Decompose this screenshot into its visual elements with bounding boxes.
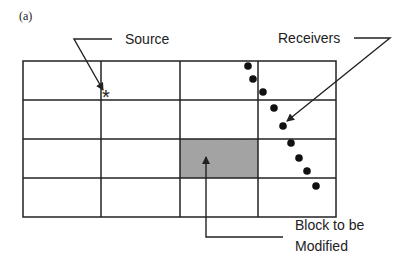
receiver-dot [270, 104, 278, 112]
receivers-label: Receivers [278, 30, 340, 46]
receiver-dot [295, 154, 303, 162]
panel-label: (a) [19, 9, 32, 23]
shaded-block-to-be-modified [180, 139, 258, 178]
receiver-dot [259, 88, 267, 96]
block-label-line2: Modified [295, 238, 348, 254]
receiver-dot [249, 75, 257, 83]
receiver-dot [279, 122, 287, 130]
receiver-dot [244, 62, 252, 70]
block-label-line1: Block to be [295, 217, 364, 233]
receivers-leader-arrow [287, 38, 390, 121]
source-leader-arrow [74, 39, 112, 90]
receiver-dot [287, 139, 295, 147]
diagram-canvas: (a) * Source Receivers Block to be Modif… [0, 0, 409, 267]
model-grid [23, 61, 336, 217]
receiver-dot [312, 182, 320, 190]
receiver-dot [303, 167, 311, 175]
source-label: Source [125, 31, 170, 47]
